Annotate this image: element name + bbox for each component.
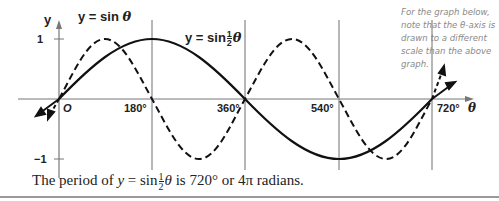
x-tick-180: 180° [124,102,147,114]
label-sin-half-theta: y = sin12θ [185,30,242,47]
label-sin-half-var: θ [233,30,242,45]
label-sin-theta: y = sin θ [78,9,131,24]
label-half-fraction: 12 [227,30,232,47]
fraction-denominator: 2 [227,39,232,47]
caption-fraction-denominator: 2 [159,182,164,191]
x-tick-720: 720° [437,102,460,114]
caption: The period of y = sin12θ is 720° or 4π r… [32,172,304,191]
caption-text-1: The period of [32,172,117,188]
label-sin-half-text: y = sin [185,30,226,45]
caption-text-2: = sin [124,172,157,188]
label-sin-theta-text: y = sin [78,9,122,24]
label-sin-theta-var: θ [122,9,131,24]
origin-label: O [63,102,72,114]
left-arrows [36,99,59,119]
y-tick-neg1: −1 [34,153,47,165]
scale-note: For the graph below, note that the θ-axi… [401,6,499,71]
caption-var-theta: θ [165,172,172,188]
y-tick-1: 1 [37,33,43,45]
x-tick-540: 540° [311,102,334,114]
bottom-rule [0,196,499,198]
x-tick-360: 360° [217,102,240,114]
caption-text-3: is 720° or 4π radians. [172,172,304,188]
y-axis-label: y [44,12,51,27]
x-axis-label: θ [468,101,476,115]
caption-fraction: 12 [159,172,164,191]
